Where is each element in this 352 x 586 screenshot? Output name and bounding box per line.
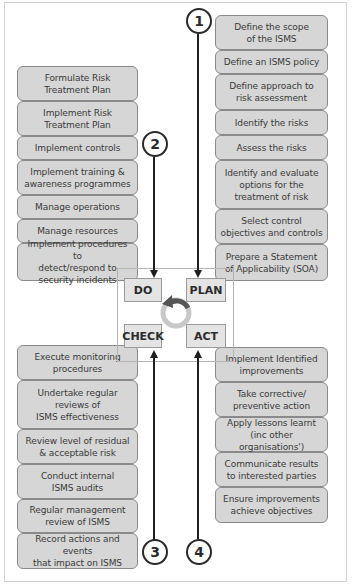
- cycle-arrow-icon: [158, 292, 194, 330]
- do-step-1: Formulate Risk Treatment Plan: [17, 66, 138, 101]
- check-connector-line: [153, 357, 155, 540]
- plan-step-2: Define an ISMS policy: [215, 50, 328, 74]
- act-connector-line: [197, 357, 199, 539]
- check-step-5: Regular management review of ISMS: [17, 499, 138, 533]
- do-step-4: Implement training & awareness programme…: [17, 160, 138, 195]
- plan-step-7: Select control objectives and controls: [215, 209, 328, 244]
- plan-step-4: Identify the risks: [215, 110, 328, 135]
- phase-check: CHECK: [124, 324, 162, 348]
- plan-step-6: Identify and evaluate options for the tr…: [215, 160, 328, 209]
- plan-connector-line: [197, 34, 199, 270]
- do-connector-line: [153, 157, 155, 270]
- act-step-5: Ensure improvements achieve objectives: [215, 487, 328, 523]
- step-number-2: 2: [142, 131, 168, 157]
- plan-arrow-icon: [194, 270, 202, 278]
- act-step-3: Apply lessons learnt (inc other organisa…: [215, 417, 328, 452]
- do-step-5: Manage operations: [17, 195, 138, 219]
- check-step-2: Undertake regular reviews of ISMS effect…: [17, 380, 138, 429]
- plan-step-1: Define the scope of the ISMS: [215, 15, 328, 50]
- step-number-1: 1: [186, 8, 212, 34]
- step-number-3: 3: [142, 539, 168, 565]
- act-step-2: Take corrective/ preventive action: [215, 382, 328, 417]
- act-step-4: Communicate results to interested partie…: [215, 452, 328, 487]
- do-arrow-icon: [150, 270, 158, 278]
- do-step-2: Implement Risk Treatment Plan: [17, 101, 138, 136]
- check-step-4: Conduct internal ISMS audits: [17, 464, 138, 499]
- check-step-3: Review level of residual & acceptable ri…: [17, 429, 138, 464]
- plan-step-5: Assess the risks: [215, 135, 328, 160]
- phase-do: DO: [124, 278, 162, 302]
- do-step-3: Implement controls: [17, 136, 138, 160]
- check-step-6: Record actions and events that impact on…: [17, 533, 138, 569]
- step-number-4: 4: [186, 539, 212, 565]
- plan-step-3: Define approach to risk assessment: [215, 74, 328, 110]
